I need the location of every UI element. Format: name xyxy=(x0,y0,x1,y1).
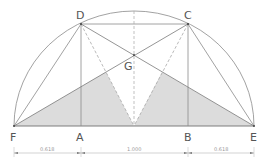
label-D: D xyxy=(76,9,84,22)
label-C: C xyxy=(184,9,192,22)
dim-label-AB: 1.000 xyxy=(127,146,141,152)
label-F: F xyxy=(10,131,16,144)
label-G: G xyxy=(124,60,133,73)
dim-label-BE: 0.618 xyxy=(214,146,228,152)
golden-rectangle-diagram: D C G F A B E 0.618 1.000 0.618 xyxy=(0,0,272,161)
dim-label-FA: 0.618 xyxy=(40,146,54,152)
shaded-triangle-right xyxy=(134,72,254,126)
label-B: B xyxy=(184,131,192,144)
point-F-dot xyxy=(13,125,15,127)
label-A: A xyxy=(76,131,84,144)
point-C-dot xyxy=(187,23,189,25)
point-E-dot xyxy=(253,125,255,127)
point-G-dot xyxy=(133,54,135,56)
point-D-dot xyxy=(80,23,82,25)
label-E: E xyxy=(250,131,257,144)
